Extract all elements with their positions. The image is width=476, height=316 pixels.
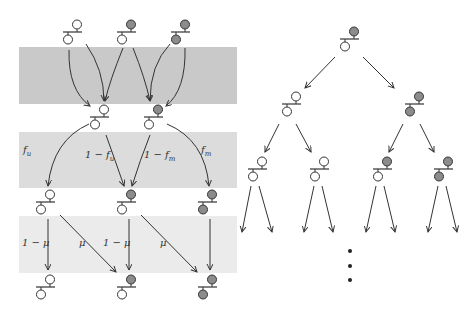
- allele-filled-icon: [199, 290, 208, 299]
- label-f-u: fu: [23, 145, 31, 158]
- allele-empty-icon: [118, 205, 127, 214]
- allele-filled-icon: [406, 107, 415, 116]
- allele-filled-icon: [181, 20, 190, 29]
- allele-empty-icon: [73, 20, 82, 29]
- allele-empty-icon: [292, 92, 301, 101]
- allele-empty-icon: [320, 157, 329, 166]
- diagram-canvas: fu 1 − fu 1 − fm fm 1 − μ μ 1 − μ μ: [0, 0, 476, 316]
- allele-empty-icon: [91, 120, 100, 129]
- tree-root-genotype: [340, 27, 359, 51]
- tree-arrows: [242, 57, 457, 232]
- allele-filled-icon: [208, 275, 217, 284]
- label-mu-1: μ: [79, 238, 86, 248]
- allele-empty-icon: [311, 172, 320, 181]
- tree-level2-genotype: [373, 157, 392, 181]
- mutated-genotype: [117, 275, 136, 299]
- diagram-svg: [0, 0, 476, 316]
- allele-empty-icon: [37, 205, 46, 214]
- selected-genotype: [117, 190, 136, 214]
- ellipsis-dots: [348, 249, 352, 282]
- allele-empty-icon: [100, 105, 109, 114]
- allele-empty-icon: [118, 35, 127, 44]
- label-f-m: fm: [201, 145, 211, 158]
- allele-filled-icon: [127, 20, 136, 29]
- allele-empty-icon: [118, 290, 127, 299]
- mutated-genotype: [36, 275, 55, 299]
- allele-empty-icon: [249, 172, 258, 181]
- label-one-minus-f-u: 1 − fu: [85, 150, 114, 163]
- parent-genotype: [117, 20, 136, 44]
- allele-filled-icon: [208, 190, 217, 199]
- recombination-arrows: [69, 44, 185, 106]
- offspring-genotype: [90, 105, 109, 129]
- mutated-genotype: [198, 275, 217, 299]
- allele-filled-icon: [154, 105, 163, 114]
- allele-empty-icon: [46, 275, 55, 284]
- tree-level1-genotype: [405, 92, 424, 116]
- selection-arrows: [48, 124, 209, 186]
- allele-empty-icon: [258, 157, 267, 166]
- allele-empty-icon: [37, 290, 46, 299]
- allele-empty-icon: [46, 190, 55, 199]
- allele-empty-icon: [64, 35, 73, 44]
- allele-empty-icon: [283, 107, 292, 116]
- allele-filled-icon: [444, 157, 453, 166]
- allele-empty-icon: [341, 42, 350, 51]
- allele-filled-icon: [127, 275, 136, 284]
- allele-filled-icon: [199, 205, 208, 214]
- allele-filled-icon: [172, 35, 181, 44]
- tree-level2-genotype: [434, 157, 453, 181]
- label-one-minus-mu-1: 1 − μ: [22, 238, 50, 248]
- tree-level2-genotype: [310, 157, 329, 181]
- allele-filled-icon: [435, 172, 444, 181]
- allele-filled-icon: [350, 27, 359, 36]
- allele-filled-icon: [415, 92, 424, 101]
- selected-genotype: [198, 190, 217, 214]
- label-one-minus-mu-2: 1 − μ: [103, 238, 131, 248]
- parent-genotype: [171, 20, 190, 44]
- label-mu-2: μ: [160, 238, 167, 248]
- selected-genotype: [36, 190, 55, 214]
- label-one-minus-f-m: 1 − fm: [144, 150, 175, 163]
- allele-filled-icon: [127, 190, 136, 199]
- parent-genotype: [63, 20, 82, 44]
- tree-level2-genotype: [248, 157, 267, 181]
- allele-filled-icon: [383, 157, 392, 166]
- allele-empty-icon: [145, 120, 154, 129]
- offspring-genotype: [144, 105, 163, 129]
- allele-empty-icon: [374, 172, 383, 181]
- tree-level1-genotype: [282, 92, 301, 116]
